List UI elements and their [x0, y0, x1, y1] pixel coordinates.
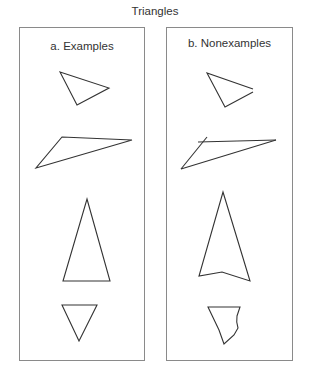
nonexample-notched-arrow-shape — [199, 192, 250, 281]
example-inverted-triangle — [62, 305, 97, 341]
shapes-canvas — [0, 0, 310, 374]
example-small-scalene-triangle — [60, 72, 109, 105]
nonexample-curved-side-shape — [208, 307, 240, 344]
example-tall-isosceles-triangle — [63, 199, 110, 281]
nonexample-overlapping-sides-triangle — [181, 137, 276, 169]
nonexample-open-triangle — [207, 73, 253, 107]
example-long-obtuse-triangle — [36, 137, 132, 168]
